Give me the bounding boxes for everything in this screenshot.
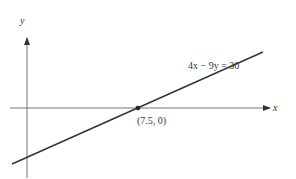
intercept-point-marker (136, 106, 141, 111)
equation-label: 4x − 9y = 30 (188, 61, 239, 71)
intercept-point-label: (7.5, 0) (137, 116, 166, 126)
x-axis-label: x (273, 103, 277, 113)
chart-canvas: y x 4x − 9y = 30 (7.5, 0) (0, 0, 296, 179)
plot-area (0, 0, 296, 179)
y-axis-label: y (20, 16, 24, 26)
